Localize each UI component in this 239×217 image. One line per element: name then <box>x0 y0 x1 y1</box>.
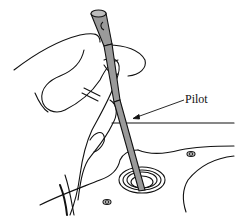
finger-nail <box>90 133 104 152</box>
pilot-label: Pilot <box>185 92 208 107</box>
head-inner-curve <box>183 156 234 212</box>
illustration <box>0 0 239 217</box>
pilot-leader-line <box>137 100 184 117</box>
pilot-arrowhead <box>133 115 140 120</box>
head-outline <box>138 146 234 153</box>
hand-back <box>14 34 100 70</box>
figure: Pilot <box>0 0 239 217</box>
